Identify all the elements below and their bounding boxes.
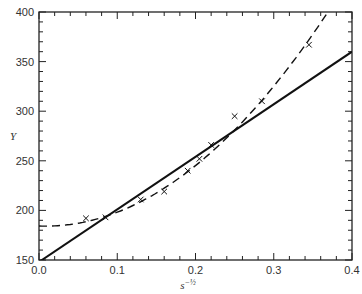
plot-border — [39, 12, 352, 260]
y-tick-label: 300 — [16, 105, 34, 117]
linear-fit-line — [39, 52, 352, 262]
quadratic-fit-curve — [39, 0, 349, 226]
data-point-marker — [83, 216, 89, 222]
x-axis-label: s−½ — [180, 278, 196, 291]
y-tick-label: 200 — [16, 204, 34, 216]
x-tick-label: 0.3 — [266, 264, 281, 276]
y-tick-label: 150 — [16, 254, 34, 266]
y-tick-label: 250 — [16, 155, 34, 167]
x-tick-label: 0.4 — [344, 264, 359, 276]
y-axis-label: Y — [10, 130, 18, 142]
y-tick-label: 350 — [16, 56, 34, 68]
axis-ticks — [39, 12, 352, 260]
x-tick-label: 0.1 — [110, 264, 125, 276]
data-point-marker — [306, 42, 312, 48]
data-point-marker — [161, 189, 167, 195]
tick-labels: 0.00.10.20.30.4150200250300350400 — [16, 6, 360, 276]
axes-frame — [39, 12, 352, 260]
data-point-marker — [232, 113, 238, 119]
y-tick-label: 400 — [16, 6, 34, 18]
x-tick-label: 0.2 — [188, 264, 203, 276]
chart: 0.00.10.20.30.4150200250300350400 Y s−½ — [0, 0, 362, 294]
data-point-marker — [197, 156, 203, 162]
plot-series — [39, 0, 352, 262]
